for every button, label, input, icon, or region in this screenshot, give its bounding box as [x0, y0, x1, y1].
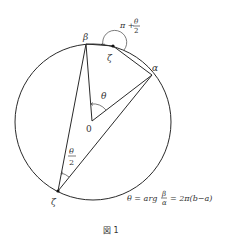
- label-alpha: α: [152, 63, 158, 73]
- label-beta: β: [82, 32, 88, 42]
- equation-frac-numerator: β: [161, 190, 166, 198]
- circle-diagram: β ζ α 0 ζ θ θ 2 π + θ 2 θ = arg β α = 2π…: [0, 0, 233, 244]
- radius-to-beta: [86, 44, 92, 121]
- label-zeta-top: ζ: [107, 53, 113, 63]
- inscribed-angle-arc: [61, 173, 69, 177]
- zeta-bottom-point: [56, 189, 59, 192]
- segment-zeta-beta: [58, 44, 86, 191]
- exterior-denominator: 2: [134, 27, 138, 35]
- label-inscribed-angle: θ 2: [68, 147, 76, 167]
- exterior-numerator: θ: [134, 18, 139, 26]
- label-zeta-bottom: ζ: [51, 197, 57, 207]
- center-angle-arc: [91, 104, 106, 110]
- label-origin: 0: [86, 124, 92, 134]
- equation: θ = arg β α = 2π(b−a): [127, 190, 212, 207]
- label-center-angle: θ: [101, 91, 107, 101]
- segment-zeta-alpha-top: [113, 46, 152, 75]
- exterior-prefix: π +: [119, 21, 135, 30]
- equation-rhs: = 2π(b−a): [170, 194, 212, 203]
- figure-caption: 図 1: [103, 226, 119, 235]
- inscribed-denominator: 2: [69, 158, 74, 167]
- equation-lhs: θ = arg: [127, 194, 157, 203]
- unit-circle: [15, 44, 171, 200]
- equation-frac-denominator: α: [162, 199, 167, 207]
- inscribed-numerator: θ: [69, 147, 74, 156]
- zeta-top-point: [111, 44, 114, 47]
